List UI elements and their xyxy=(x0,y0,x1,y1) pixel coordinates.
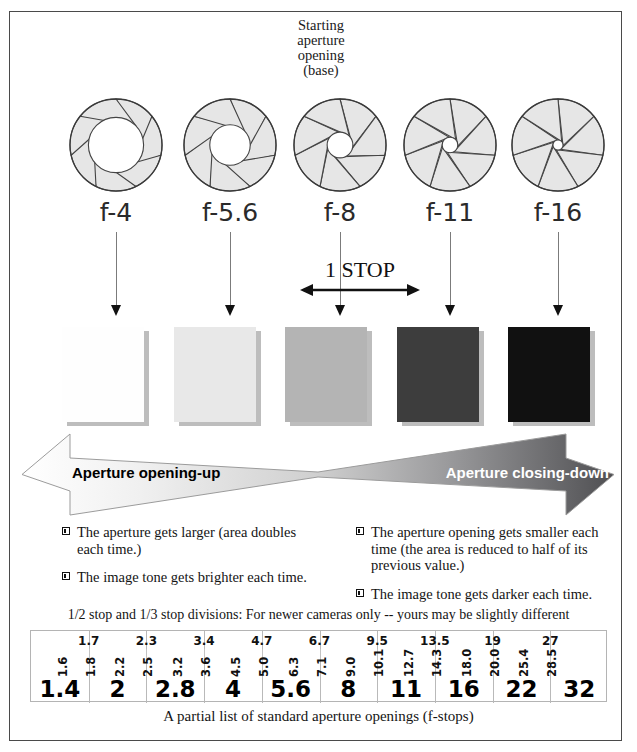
third-stop-14-3: 14.3 xyxy=(430,649,444,677)
fstop-scale: 1.422.845.68111622321.72.33.44.76.79.513… xyxy=(30,630,607,702)
fstop-label-f-16: f-16 xyxy=(503,198,613,227)
third-stop-28-5: 28.5 xyxy=(545,649,559,677)
third-stop-10-1: 10.1 xyxy=(372,649,386,677)
third-stop-12-7: 12.7 xyxy=(402,649,416,677)
tone-swatch-f-16 xyxy=(508,327,590,422)
starting-aperture-label: Starting aperture opening (base) xyxy=(246,18,396,78)
bullet-square-icon xyxy=(62,572,70,580)
third-stop-7-1: 7.1 xyxy=(315,657,329,677)
half-stop-19: 19 xyxy=(463,634,523,648)
third-stop-2-2: 2.2 xyxy=(113,657,127,677)
bullet-square-icon xyxy=(356,589,364,597)
third-stop-3-6: 3.6 xyxy=(199,657,213,677)
third-stop-4-5: 4.5 xyxy=(229,657,243,677)
third-stop-20-0: 20.0 xyxy=(488,649,502,677)
bullet-left-1: The aperture gets larger (area doubles e… xyxy=(62,524,312,557)
half-stop-9-5: 9.5 xyxy=(347,634,407,648)
whole-stop-32: 32 xyxy=(544,676,614,702)
iris-diagram-f-16 xyxy=(510,97,606,193)
fstop-label-f-11: f-11 xyxy=(395,198,505,227)
half-stop-2-3: 2.3 xyxy=(116,634,176,648)
bullet-square-icon xyxy=(356,527,364,535)
half-stop-27: 27 xyxy=(520,634,580,648)
drop-line-f-11 xyxy=(450,232,451,307)
third-stop-18-0: 18.0 xyxy=(460,649,474,677)
tone-swatch-f-11 xyxy=(397,327,479,422)
aperture-closing-down-label: Aperture closing-down xyxy=(446,464,609,481)
bullet-text: The image tone gets brighter each time. xyxy=(77,569,307,585)
half-stop-1-7: 1.7 xyxy=(59,634,119,648)
third-stop-5-0: 5.0 xyxy=(257,657,271,677)
half-stop-3-4: 3.4 xyxy=(174,634,234,648)
aperture-diagram-page: Starting aperture opening (base) f-4 f-5… xyxy=(0,0,637,752)
fstop-label-f-8: f-8 xyxy=(285,198,395,227)
drop-arrowhead-f-5-6 xyxy=(225,305,235,316)
heading-line-2: aperture xyxy=(246,33,396,48)
tone-swatch-f-4 xyxy=(62,327,144,422)
fstop-label-f-4: f-4 xyxy=(61,198,171,227)
bullet-right-1: The aperture opening gets smaller each t… xyxy=(356,524,618,574)
drop-line-f-5-6 xyxy=(230,232,231,307)
third-stop-6-3: 6.3 xyxy=(287,657,301,677)
third-stop-1-8: 1.8 xyxy=(84,657,98,677)
aperture-opening-up-label: Aperture opening-up xyxy=(72,464,220,481)
drop-arrowhead-f-11 xyxy=(445,305,455,316)
bullet-right-2: The image tone gets darker each time. xyxy=(356,586,618,603)
tone-swatch-f-5-6 xyxy=(174,327,256,422)
bullets-opening-up: The aperture gets larger (area doubles e… xyxy=(62,524,312,586)
heading-line-1: Starting xyxy=(246,18,396,33)
bullet-left-2: The image tone gets brighter each time. xyxy=(62,569,312,586)
one-stop-arrow-icon xyxy=(300,283,420,297)
bullets-closing-down: The aperture opening gets smaller each t… xyxy=(356,524,618,602)
bullet-text: The image tone gets darker each time. xyxy=(371,586,592,602)
bullet-text: The aperture opening gets smaller each t… xyxy=(371,524,598,573)
drop-arrowhead-f-8 xyxy=(335,305,345,316)
scale-note: 1/2 stop and 1/3 stop divisions: For new… xyxy=(0,607,637,623)
drop-line-f-4 xyxy=(116,232,117,307)
iris-diagram-f-11 xyxy=(402,97,498,193)
iris-diagram-f-5-6 xyxy=(182,97,278,193)
iris-diagram-f-8 xyxy=(292,97,388,193)
heading-line-3: opening xyxy=(246,48,396,63)
half-stop-4-7: 4.7 xyxy=(232,634,292,648)
iris-diagram-f-4 xyxy=(68,97,164,193)
heading-line-4: (base) xyxy=(246,63,396,78)
scale-caption: A partial list of standard aperture open… xyxy=(0,708,637,725)
bullet-text: The aperture gets larger (area doubles e… xyxy=(77,524,296,557)
third-stop-9-0: 9.0 xyxy=(344,657,358,677)
half-stop-6-7: 6.7 xyxy=(290,634,350,648)
bullet-square-icon xyxy=(62,527,70,535)
third-stop-1-6: 1.6 xyxy=(56,657,70,677)
drop-arrowhead-f-4 xyxy=(111,305,121,316)
drop-line-f-16 xyxy=(558,232,559,307)
tone-swatch-f-8 xyxy=(285,327,367,422)
third-stop-3-2: 3.2 xyxy=(171,657,185,677)
third-stop-25-4: 25.4 xyxy=(517,649,531,677)
fstop-label-f-5-6: f-5.6 xyxy=(175,198,285,227)
one-stop-label: 1 STOP xyxy=(300,257,420,283)
third-stop-2-5: 2.5 xyxy=(141,657,155,677)
half-stop-13-5: 13.5 xyxy=(405,634,465,648)
drop-arrowhead-f-16 xyxy=(553,305,563,316)
